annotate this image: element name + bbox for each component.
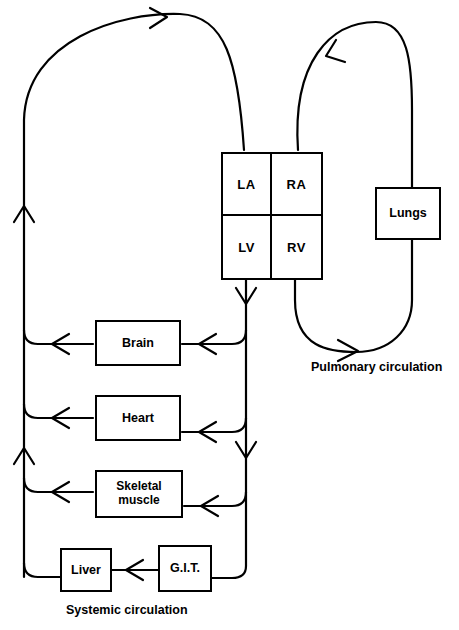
caption-pulmonary-circulation: Pulmonary circulation xyxy=(311,360,442,374)
organ-box-skeletal-muscle: Skeletal muscle xyxy=(95,470,183,518)
chamber-left-atrium: LA xyxy=(223,154,272,216)
organ-box-git: G.I.T. xyxy=(158,545,212,592)
organ-box-liver: Liver xyxy=(60,548,112,592)
organ-box-heart: Heart xyxy=(95,395,181,441)
path-left-arc-to-la xyxy=(24,14,244,150)
heart-chambers: LA RA LV RV xyxy=(221,152,323,280)
organ-box-brain: Brain xyxy=(95,320,181,366)
flow-path-layer xyxy=(0,0,459,630)
organ-label-heart: Heart xyxy=(122,411,154,425)
organ-label-skeletal-line1: Skeletal xyxy=(116,480,161,494)
path-liver-to-vein xyxy=(24,563,60,577)
caption-systemic-circulation: Systemic circulation xyxy=(66,603,188,617)
organ-label-lungs: Lungs xyxy=(389,206,427,220)
organ-label-git: G.I.T. xyxy=(170,561,200,575)
path-branch-to-heart xyxy=(182,418,246,432)
path-skeletal-to-vein xyxy=(24,478,93,492)
organ-label-skeletal-line2: muscle xyxy=(116,494,161,508)
chamber-label-rv: RV xyxy=(287,240,306,255)
path-heart-to-vein xyxy=(24,404,93,418)
organ-label-liver: Liver xyxy=(71,563,101,577)
chamber-left-ventricle: LV xyxy=(223,216,272,278)
chamber-label-lv: LV xyxy=(238,240,255,255)
chamber-label-ra: RA xyxy=(287,177,307,192)
organ-box-lungs: Lungs xyxy=(375,187,441,240)
chamber-right-atrium: RA xyxy=(272,154,321,216)
path-brain-to-vein xyxy=(24,330,93,344)
arrowhead-left-arc-top xyxy=(150,8,167,28)
path-branch-to-brain xyxy=(182,330,246,344)
organ-label-brain: Brain xyxy=(122,336,154,350)
chamber-label-la: LA xyxy=(237,177,255,192)
circulatory-system-diagram: LA RA LV RV Lungs Brain Heart Skeletal m… xyxy=(0,0,459,630)
arrowhead-ra-arc-top xyxy=(326,40,345,62)
chamber-right-ventricle: RV xyxy=(272,216,321,278)
